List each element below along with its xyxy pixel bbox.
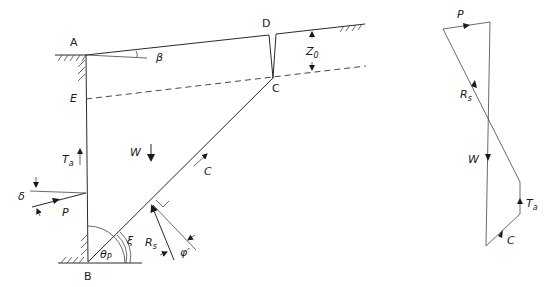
wedge-diagram: A E B D C β Z0 W Ta δ P C ξ θP Rs φ′ P R… [0,0,553,287]
weight-label: W [130,146,142,159]
c-label: C [204,165,212,178]
p-label: P [62,206,69,219]
theta-p-label: θP [100,248,112,262]
beta-label: β [155,51,163,64]
ground-hatch-top [55,55,87,81]
p-arrowhead [52,198,60,204]
delta-reference-line [30,191,86,193]
p-arrow [32,193,86,207]
polygon-c-label: C [507,234,515,247]
z0-label: Z0 [305,45,319,60]
polygon-rs-side [443,29,520,182]
point-C-label: C [272,82,280,95]
polygon-rs-label: Rs [460,88,472,103]
wall-AB [86,55,88,262]
phi-label: φ′ [180,246,190,259]
polygon-w-label: W [468,153,480,166]
tension-crack-depth-line [86,66,366,99]
phi-arrow-right [188,235,195,240]
phi-arrow-left [160,252,167,255]
tension-crack-left [269,35,273,78]
polygon-ta-label: Ta [526,197,538,212]
point-D-label: D [262,17,270,30]
force-polygon [443,22,523,246]
beta-arc [136,51,137,57]
point-E-label: E [70,92,77,105]
ground-hatch-bottom [61,235,87,263]
rs-label: Rs [145,236,157,251]
theta-arc-inner [117,235,127,263]
tension-crack-right [273,34,276,78]
backfill-surface-right [276,24,365,34]
polygon-p-label: P [457,8,464,21]
point-B-label: B [84,270,92,283]
right-angle-mark [156,200,169,207]
ta-label: Ta [62,153,74,168]
polygon-w-arrowhead [485,154,491,161]
rs-arrow [152,206,174,260]
delta-arrow-bottom [37,209,40,216]
polygon-ta-arrowhead [517,198,523,204]
point-A-label: A [70,36,78,49]
xi-label: ξ [126,234,134,247]
normal-line [153,205,196,250]
polygon-w-side [486,22,490,246]
failure-plane-BC [88,78,273,262]
polygon-p-arrowhead [463,23,470,29]
backfill-surface-AD [86,35,269,55]
beta-reference-line [86,55,147,58]
delta-label: δ [18,190,25,203]
